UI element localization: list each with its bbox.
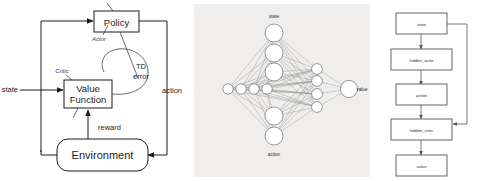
td-error-label-line2: error [133,72,149,81]
computation-graph-panel: state hidden_actor action hidden_critic … [374,0,480,181]
hidden-actor-node-1 [223,84,233,94]
input-node-state-2 [265,44,283,62]
flow-box-state-label: state [417,22,427,27]
value-function-label-line1: Value [76,83,100,94]
input-node-action-1 [265,107,283,125]
hidden-actor-node-2 [236,84,246,94]
value-function-bottom-tick [73,108,78,118]
flow-box-hidden-critic-label: hidden_critic [410,128,434,133]
state-signal-label: state [2,85,18,94]
hidden-actor-node-3 [249,84,259,94]
actor-critic-diagram-panel: Policy Actor Value Function Critic state… [0,0,186,181]
critic-annotation-pointer [66,75,72,80]
value-function-label-line2: Function [70,94,106,105]
policy-top-tick [107,3,113,11]
critic-annotation-label: Critic [55,68,69,74]
hidden-critic-node-1 [312,64,323,75]
flow-box-value-label: value [416,164,427,169]
actor-annotation-label: Actor [91,36,107,42]
flow-box-hidden-actor-label: hidden_actor [409,58,434,63]
neural-network-svg: state action value [186,0,374,181]
network-action-label: action [268,152,281,157]
hidden-critic-node-2 [312,76,323,87]
computation-graph-svg: state hidden_actor action hidden_critic … [374,0,480,181]
neural-network-diagram-panel: state action value [186,0,374,181]
hidden-actor-node-4 [262,84,272,94]
hidden-critic-node-3 [312,89,323,100]
td-error-label-line1: TD [136,62,147,71]
input-node-action-2 [265,127,283,145]
network-value-label: value [357,87,368,92]
input-node-state-3 [265,63,283,81]
output-node-value [340,80,357,97]
environment-box-label: Environment [72,149,134,161]
edge-state-to-hidden-critic-skip [447,24,467,124]
input-node-state-1 [265,24,283,42]
hidden-critic-node-4 [312,102,323,113]
action-signal-label: action [162,86,182,95]
network-state-label: state [269,14,279,19]
edge-environment-to-left-rail [41,150,57,155]
figure-root: Policy Actor Value Function Critic state… [0,0,480,181]
flow-box-action-label: action [416,93,428,98]
reward-signal-label: reward [98,123,121,132]
actor-critic-svg: Policy Actor Value Function Critic state… [0,0,186,181]
